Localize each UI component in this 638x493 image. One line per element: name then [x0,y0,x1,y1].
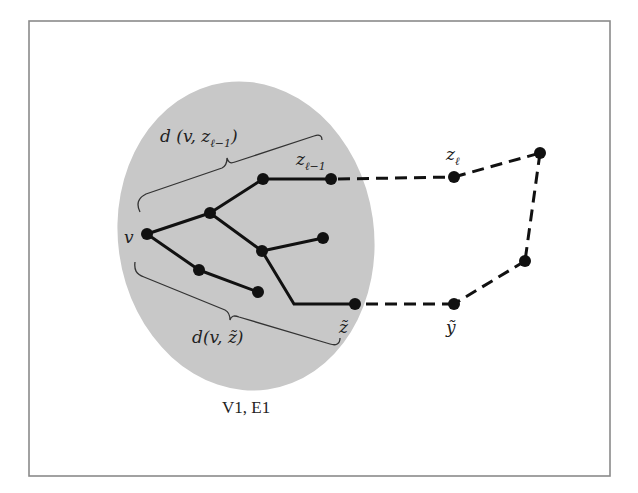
node-z-tilde [349,298,361,310]
label-y-tilde: ỹ [445,317,456,337]
label-z-tilde: z̃ [338,317,349,337]
node-z-l [448,171,460,183]
node [204,207,216,219]
node [256,245,268,257]
node [519,255,531,267]
node-v [141,228,153,240]
node-y-tilde [448,298,460,310]
graph-figure: v zℓ−1 zℓ d (v, zℓ−1) d(v, z̃) z̃ ỹ V1, … [0,0,638,493]
node-z-l-minus-1 [325,173,337,185]
node [257,173,269,185]
node [317,232,329,244]
node [252,286,264,298]
label-z-l: zℓ [445,144,460,168]
label-v: v [124,227,134,247]
label-brace-bottom: d(v, z̃) [192,327,244,347]
node [193,264,205,276]
region-caption: V1, E1 [222,398,270,417]
node [534,147,546,159]
